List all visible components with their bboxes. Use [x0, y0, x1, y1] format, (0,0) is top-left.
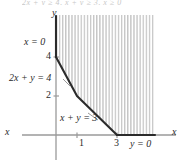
x-axis-label-left: x	[5, 127, 9, 137]
constraint-label-x-plus-y-eq-3: x + y = 3	[60, 113, 97, 123]
x-axis-label-right: x	[172, 127, 176, 137]
constraint-label-y-eq-0: y = 0	[130, 139, 151, 149]
figure-container: 2x + y ≥ 4, x + y ≥ 3, x ≥ 0	[0, 0, 182, 162]
constraint-label-x-eq-0: x = 0	[24, 37, 45, 47]
y-tick-label-4: 4	[46, 51, 51, 61]
y-tick-label-2: 2	[46, 90, 51, 100]
y-axis-label: y	[52, 8, 56, 18]
constraint-label-2x-plus-y-eq-4: 2x + y = 4	[9, 73, 51, 83]
x-tick-label-3: 3	[114, 138, 119, 148]
x-tick-label-1: 1	[79, 138, 84, 148]
